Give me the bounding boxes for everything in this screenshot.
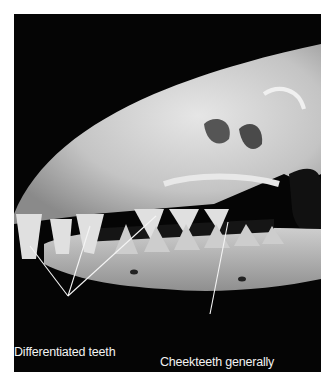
photo-frame: Differentiated teeth (heterodont): incis… xyxy=(14,14,321,372)
skull-photo xyxy=(14,14,321,372)
annotation-line: Cheekteeth generally xyxy=(160,355,310,370)
annotation-line: Differentiated teeth xyxy=(14,345,144,360)
annotation-heterodont: Differentiated teeth (heterodont): incis… xyxy=(14,330,144,372)
annotation-cheekteeth: Cheekteeth generally more complex than i… xyxy=(160,340,310,372)
